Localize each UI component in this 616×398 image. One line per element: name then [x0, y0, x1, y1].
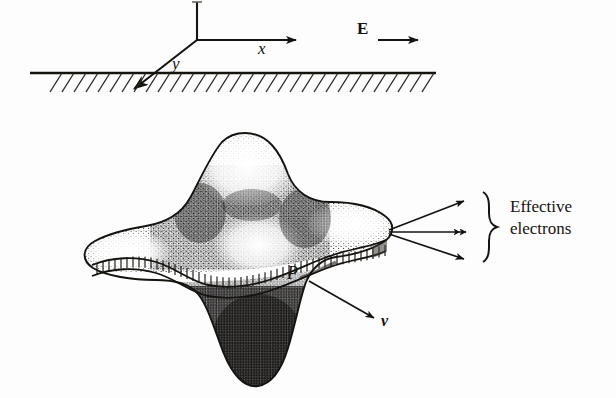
y-axis-label: y: [172, 55, 180, 72]
effective-electrons-label: Effective electrons: [510, 196, 572, 240]
effective-electrons-line1: Effective: [510, 196, 572, 218]
velocity-label: v: [381, 313, 388, 329]
effective-electrons-line2: electrons: [510, 218, 572, 240]
point-p-label: P: [287, 264, 298, 282]
e-field-label: E: [357, 20, 368, 37]
x-axis-label: x: [258, 40, 266, 57]
